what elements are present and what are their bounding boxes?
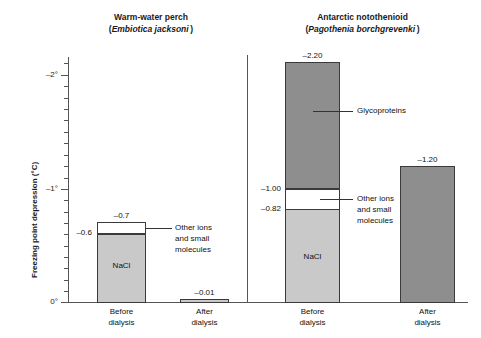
right-category-before-dialysis: Before dialysis: [283, 307, 342, 328]
y-tick-minor: [64, 223, 68, 224]
left-callout-leader: [146, 228, 172, 229]
left-category-before-dialysis: Before dialysis: [92, 307, 151, 328]
left-bar1-nacl-label: NaCl: [97, 261, 146, 270]
left-cat1-line1: Before: [92, 307, 151, 318]
y-tick-minor: [64, 200, 68, 201]
right-bar2-value-label: –1.20: [400, 155, 455, 164]
right-cat1-line2: dialysis: [283, 318, 342, 329]
right-callout-glycoproteins: Glycoproteins: [357, 105, 406, 116]
left-bar1-segment-other-ions: [97, 222, 146, 234]
freezing-point-depression-chart: Warm-water perch (Embiotica jacksoni ) A…: [0, 0, 481, 338]
y-tick-minor: [64, 268, 68, 269]
right-callout-glyco-leader: [313, 111, 353, 112]
panel-divider: [247, 55, 248, 303]
y-tick-label-zero: 0°: [36, 297, 58, 306]
y-tick-major-minus2: [61, 75, 68, 76]
y-tick-minor: [64, 212, 68, 213]
y-tick-minor: [64, 86, 68, 87]
y-tick-minor: [64, 280, 68, 281]
left-bar2-value-label: –0.01: [180, 288, 229, 297]
right-cat2-line2: dialysis: [398, 318, 457, 329]
right-bar1-value-label: –2.20: [285, 51, 340, 60]
left-category-after-dialysis: After dialysis: [175, 307, 234, 328]
y-tick-minor: [64, 143, 68, 144]
right-bar2-segment-glycoproteins: [400, 166, 455, 303]
y-tick-minor: [64, 257, 68, 258]
left-panel-title-common: Warm-water perch: [96, 12, 206, 24]
y-tick-minor: [64, 63, 68, 64]
y-tick-minor: [64, 246, 68, 247]
y-tick-major-zero: [61, 302, 68, 303]
left-callout-line2: and small: [175, 233, 212, 244]
right-cat2-line1: After: [398, 307, 457, 318]
y-axis-line: [68, 57, 69, 303]
left-callout-line1: Other ions: [175, 222, 212, 233]
right-callout-other-leader: [320, 199, 353, 200]
y-tick-minor: [64, 132, 68, 133]
right-callout-line3: molecules: [357, 215, 394, 226]
right-bar1-segment-glycoproteins: [285, 62, 340, 189]
right-panel-title-common: Antarctic notothenioid: [285, 12, 440, 24]
y-tick-minor: [64, 166, 68, 167]
right-cat1-line1: Before: [283, 307, 342, 318]
left-bar2-segment: [180, 299, 229, 303]
y-tick-major-minus1: [61, 189, 68, 190]
y-tick-minor: [64, 155, 68, 156]
y-tick-minor: [64, 109, 68, 110]
right-callout-line2: and small: [357, 204, 394, 215]
left-bar1-value-label: –0.7: [97, 211, 146, 220]
y-tick-label-minus1: –1°: [36, 184, 58, 193]
y-tick-label-minus2: –2°: [36, 70, 58, 79]
left-cat1-line2: dialysis: [92, 318, 151, 329]
right-category-after-dialysis: After dialysis: [398, 307, 457, 328]
right-panel-title: Antarctic notothenioid (Pagothenia borch…: [285, 12, 440, 35]
right-callout-other-ions: Other ions and small molecules: [357, 193, 394, 226]
left-callout-line3: molecules: [175, 244, 212, 255]
right-bar1-nacl-label: NaCl: [285, 252, 340, 261]
y-tick-minor: [64, 291, 68, 292]
right-bar1-boundary-other-label: –0.82: [249, 204, 281, 213]
left-cat2-line2: dialysis: [175, 318, 234, 329]
left-callout-other-ions: Other ions and small molecules: [175, 222, 212, 255]
right-callout-line1: Other ions: [357, 193, 394, 204]
y-tick-minor: [64, 98, 68, 99]
right-panel-title-species: (Pagothenia borchgrevenki ): [285, 24, 440, 36]
left-bar1-boundary-label: –0.6: [64, 228, 92, 237]
left-panel-title-species: (Embiotica jacksoni ): [96, 24, 206, 36]
y-axis-title: Freezing point depression (°C): [30, 162, 39, 278]
right-bar1-boundary-glyco-label: –1.00: [249, 184, 281, 193]
y-tick-minor: [64, 120, 68, 121]
left-panel-title: Warm-water perch (Embiotica jacksoni ): [96, 12, 206, 35]
y-tick-minor: [64, 178, 68, 179]
left-cat2-line1: After: [175, 307, 234, 318]
